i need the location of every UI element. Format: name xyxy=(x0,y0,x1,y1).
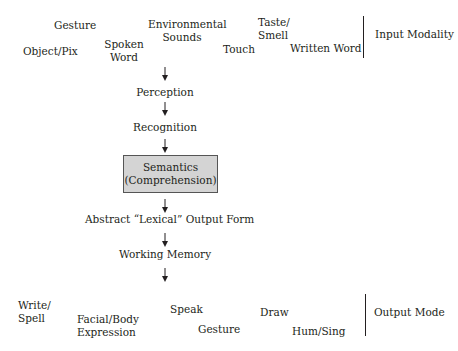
output-speak: Speak xyxy=(170,303,203,316)
input-environmental-sounds-line2: Sounds xyxy=(148,31,216,44)
stage-lexical-output: Abstract “Lexical” Output Form xyxy=(85,213,245,226)
output-facial-body-line2: Expression xyxy=(77,326,139,339)
input-written-word: Written Word xyxy=(290,42,362,55)
stage-recognition: Recognition xyxy=(115,121,215,134)
input-environmental-sounds: Environmental Sounds xyxy=(148,18,216,44)
output-write-spell-line1: Write/ xyxy=(18,299,51,312)
input-taste-smell-line2: Smell xyxy=(258,29,290,42)
arrow-down-icon xyxy=(161,139,169,153)
output-divider xyxy=(365,294,366,336)
input-environmental-sounds-line1: Environmental xyxy=(148,18,216,31)
input-divider xyxy=(363,16,364,58)
input-spoken-word-line2: Word xyxy=(104,51,144,64)
arrow-down-icon xyxy=(161,233,169,247)
stage-working-memory: Working Memory xyxy=(115,248,215,261)
input-object-pix: Object/Pix xyxy=(23,45,78,58)
output-draw: Draw xyxy=(260,306,289,319)
arrow-down-icon xyxy=(161,268,169,282)
output-hum-sing: Hum/Sing xyxy=(292,325,345,338)
input-touch: Touch xyxy=(223,43,255,56)
semantics-line2: (Comprehension) xyxy=(124,174,216,187)
arrow-down-icon xyxy=(161,67,169,81)
arrow-down-icon xyxy=(161,199,169,213)
output-facial-body-line1: Facial/Body xyxy=(77,313,139,326)
input-modality-label: Input Modality xyxy=(375,28,454,41)
semantics-line1: Semantics xyxy=(143,161,198,174)
output-gesture: Gesture xyxy=(198,323,240,336)
input-spoken-word: Spoken Word xyxy=(104,38,144,64)
input-spoken-word-line1: Spoken xyxy=(104,38,144,51)
output-write-spell-line2: Spell xyxy=(18,312,51,325)
output-mode-label: Output Mode xyxy=(374,306,445,319)
output-write-spell: Write/ Spell xyxy=(18,299,51,325)
input-gesture: Gesture xyxy=(54,19,96,32)
arrow-down-icon xyxy=(161,102,169,116)
semantics-box: Semantics (Comprehension) xyxy=(123,155,218,193)
input-taste-smell-line1: Taste/ xyxy=(258,16,290,29)
input-taste-smell: Taste/ Smell xyxy=(258,16,290,42)
stage-perception: Perception xyxy=(115,86,215,99)
output-facial-body-expression: Facial/Body Expression xyxy=(77,313,139,339)
